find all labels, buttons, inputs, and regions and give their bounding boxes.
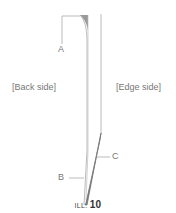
caption-number: 10 <box>90 199 102 210</box>
back-profile-line <box>80 15 87 205</box>
figure-caption: ILL. 10 <box>0 199 176 210</box>
blade-profile-diagram <box>0 0 176 213</box>
caption-prefix: ILL. <box>75 202 88 209</box>
label-c: C <box>112 151 119 161</box>
leader-line-a <box>62 16 80 44</box>
shaded-region-top <box>80 15 88 30</box>
label-edge-side: [Edge side] <box>116 82 161 92</box>
label-a: A <box>58 44 64 54</box>
label-b: B <box>58 172 64 182</box>
label-back-side: [Back side] <box>12 82 56 92</box>
